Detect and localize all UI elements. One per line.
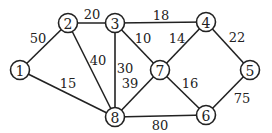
edge-2-8 (68, 23, 115, 117)
node-7: 7 (151, 61, 170, 80)
edge-weight-label: 50 (30, 31, 47, 46)
node-8: 8 (106, 108, 125, 127)
node-label: 5 (246, 63, 255, 79)
node-label: 2 (64, 16, 73, 32)
edge-weight-label: 15 (60, 76, 77, 91)
edge-weight-label: 16 (182, 76, 199, 91)
node-label: 4 (202, 15, 211, 31)
node-6: 6 (197, 106, 216, 125)
edge-weight-label: 30 (117, 61, 134, 76)
weighted-graph: 50201822154030101439168075 12345678 (0, 0, 272, 133)
edge-weight-label: 18 (153, 8, 170, 23)
edge-weight-label: 75 (234, 91, 251, 106)
node-label: 7 (156, 63, 165, 79)
edge-weight-label: 14 (169, 31, 186, 46)
edge-weight-label: 40 (90, 53, 107, 68)
edge-weight-label: 20 (84, 7, 101, 22)
edge-weight-label: 22 (229, 30, 246, 45)
node-label: 6 (202, 108, 211, 124)
node-label: 8 (111, 110, 120, 126)
node-1: 1 (11, 61, 30, 80)
node-3: 3 (106, 14, 125, 33)
node-2: 2 (59, 14, 78, 33)
node-4: 4 (197, 13, 216, 32)
node-label: 1 (16, 63, 25, 79)
node-5: 5 (241, 61, 260, 80)
node-label: 3 (111, 16, 120, 32)
edge-weight-label: 39 (122, 76, 139, 91)
edge-weight-label: 80 (152, 118, 169, 133)
edge-weight-label: 10 (135, 31, 152, 46)
